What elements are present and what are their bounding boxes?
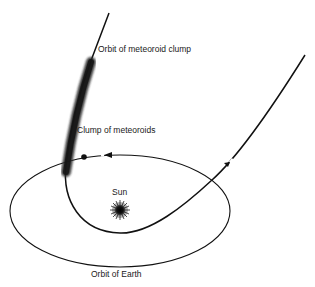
clump-label: Clump of meteoroids [77, 126, 155, 135]
diagram-canvas: Orbit of meteoroid clump Clump of meteor… [0, 0, 315, 287]
sun-icon [110, 200, 130, 220]
orbit-clump-label: Orbit of meteoroid clump [98, 45, 191, 54]
earth-orbit-label: Orbit of Earth [91, 270, 142, 279]
sun-label: Sun [112, 188, 127, 197]
earth-direction-arrow-icon [104, 152, 112, 158]
earth-dot [81, 154, 87, 160]
